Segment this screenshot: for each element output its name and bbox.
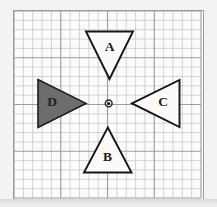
triangle-c-shape bbox=[132, 80, 180, 127]
page-edge-shadow bbox=[0, 199, 217, 207]
triangle-c-label: C bbox=[158, 94, 168, 109]
center-point-dot bbox=[107, 102, 110, 105]
triangle-a-label: A bbox=[105, 39, 115, 54]
triangles-layer: A B C D bbox=[0, 0, 217, 207]
triangle-b-label: B bbox=[103, 149, 112, 164]
triangle-d-label: D bbox=[47, 94, 57, 109]
triangle-d-shape bbox=[38, 80, 86, 128]
figure-root: A B C D bbox=[0, 0, 217, 207]
